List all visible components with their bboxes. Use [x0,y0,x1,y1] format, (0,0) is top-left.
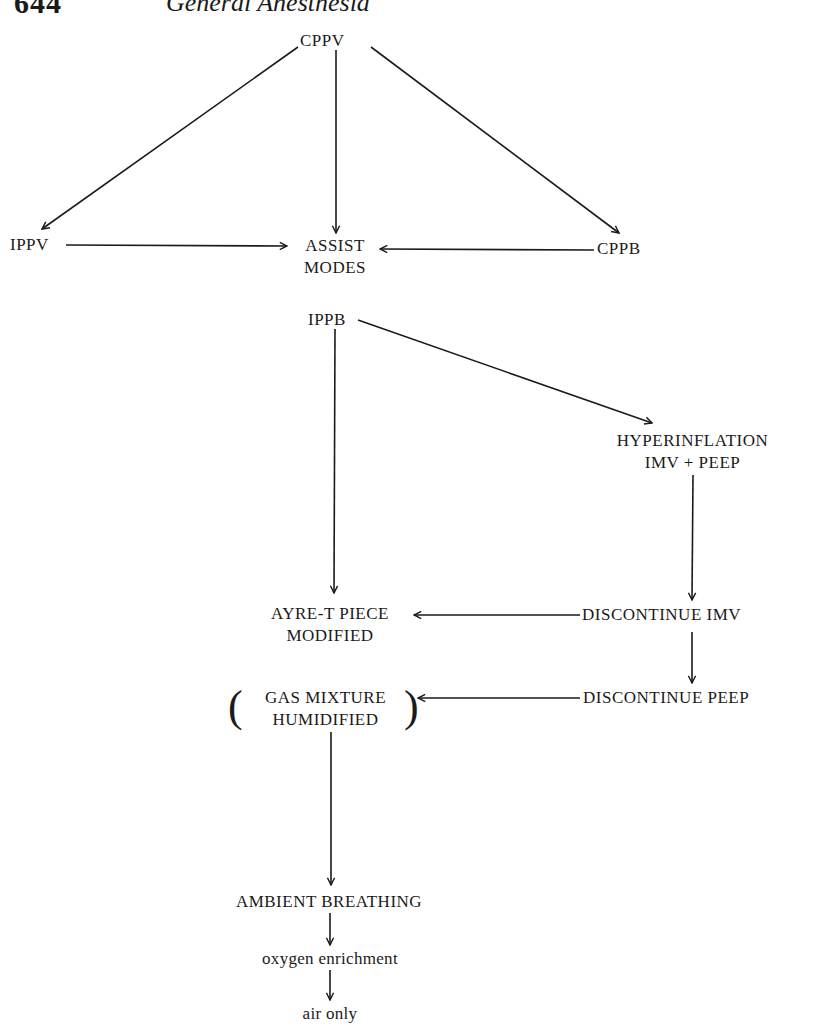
edge-ippb-ayre [334,329,335,593]
node-discontinue-imv: DISCONTINUE IMV [582,604,741,626]
node-oxygen-enrichment: oxygen enrichment [235,948,425,970]
edge-cppv-cppb [371,47,619,233]
node-ambient-breathing: AMBIENT BREATHING [204,891,454,913]
node-cppb: CPPB [597,238,641,260]
node-ippb: IPPB [308,309,346,331]
node-gas-mixture: GAS MIXTURE HUMIDIFIED [243,687,408,731]
diagram-edges [0,0,826,1034]
node-ippv: IPPV [10,234,49,256]
node-ayre-t-piece: AYRE-T PIECE MODIFIED [245,603,415,647]
node-hyperinflation: HYPERINFLATION IMV + PEEP [585,430,800,474]
right-paren: ) [404,685,419,729]
edge-ippv-assist [66,245,287,246]
node-assist-modes: ASSIST MODES [290,235,380,279]
edge-cppb-assist [380,249,594,250]
edge-cppv-ippv [42,47,298,229]
left-paren: ( [228,685,243,729]
edge-hyper-discimv [692,475,693,600]
node-cppv: CPPV [300,30,345,52]
edge-ippb-hyper [358,320,652,423]
node-air-only: air only [280,1003,380,1025]
node-discontinue-peep: DISCONTINUE PEEP [583,687,749,709]
